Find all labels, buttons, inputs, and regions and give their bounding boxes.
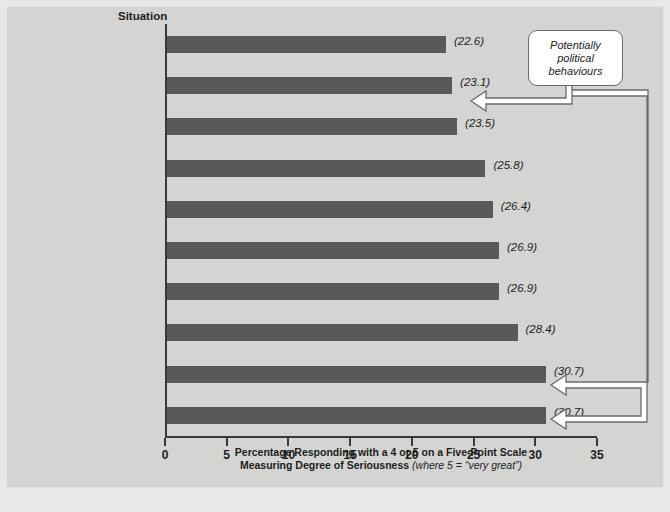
bar: [167, 77, 452, 94]
bar-value-label: (25.8): [493, 159, 523, 171]
callout-potentially-political-behaviours: Potentially political behaviours: [528, 30, 623, 86]
x-axis-caption-line1: Percentage Responding with a 4 or 5 on a…: [235, 446, 527, 458]
bar-value-label: (30.7): [554, 365, 584, 377]
bar: [167, 407, 546, 424]
bar-value-label: (26.9): [507, 282, 537, 294]
chart-row: Hiring, training, or promoting based on …: [165, 395, 597, 436]
chart-row: Using discipline inconsistently(26.9): [165, 230, 597, 271]
x-axis-caption-note: (where 5 = “very great”): [412, 459, 522, 471]
plot-area: 05101520253035Gender discrimination in r…: [165, 24, 597, 444]
x-axis-tick: [534, 438, 536, 446]
x-axis-tick: [349, 438, 351, 446]
chart-row: Sexual harassment(28.4): [165, 312, 597, 353]
bar-value-label: (22.6): [454, 35, 484, 47]
chart-row: Gender discrimination in compensation(25…: [165, 148, 597, 189]
x-axis: [165, 436, 597, 438]
x-axis-tick: [596, 438, 598, 446]
bar-value-label: (26.9): [507, 241, 537, 253]
bar: [167, 36, 446, 53]
chart-row: Not maintaining confidentiality(26.4): [165, 189, 597, 230]
bar-value-label: (28.4): [526, 323, 556, 335]
bar-value-label: (23.1): [460, 76, 490, 88]
x-axis-caption: Percentage Responding with a 4 or 5 on a…: [165, 446, 597, 472]
bar: [167, 201, 493, 218]
bar: [167, 366, 546, 383]
chart-row: Allowing differences in pay due to frien…: [165, 354, 597, 395]
bar-value-label: (30.7): [554, 406, 584, 418]
x-axis-tick: [411, 438, 413, 446]
bar: [167, 160, 485, 177]
bar-value-label: (26.4): [501, 200, 531, 212]
category-column-header: Situation: [118, 10, 167, 22]
x-axis-tick: [473, 438, 475, 446]
bar-value-label: (23.5): [465, 117, 495, 129]
bar: [167, 324, 518, 341]
x-axis-caption-line2: Measuring Degree of Seriousness: [240, 459, 412, 471]
bar: [167, 283, 499, 300]
figure-page: Situation Potentially political behaviou…: [0, 0, 670, 512]
x-axis-tick: [287, 438, 289, 446]
bar: [167, 242, 499, 259]
x-axis-tick: [226, 438, 228, 446]
x-axis-tick: [164, 438, 166, 446]
chart-row: Gender discrimination in promotion(26.9): [165, 271, 597, 312]
bar: [167, 118, 457, 135]
chart-row: Nonperformance factors used in appraisal…: [165, 106, 597, 147]
